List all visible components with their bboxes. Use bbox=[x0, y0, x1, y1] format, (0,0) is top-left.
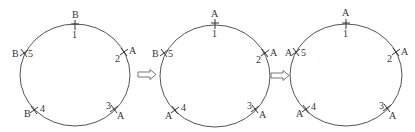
node-state: A bbox=[342, 7, 350, 18]
node-number: 1 bbox=[212, 28, 217, 39]
node-number: 4 bbox=[311, 101, 316, 112]
node-3: A 3 bbox=[106, 100, 125, 121]
node-state: A bbox=[270, 47, 278, 58]
node-number: 2 bbox=[256, 54, 261, 65]
stage-1: B 1 A 2 A 3 4 B 5 B bbox=[12, 9, 137, 126]
node-state: B bbox=[24, 108, 31, 119]
node-2: A 2 bbox=[387, 46, 409, 64]
transition-arrow-1 bbox=[138, 70, 156, 80]
node-number: 1 bbox=[343, 28, 348, 39]
node-2: A 2 bbox=[256, 47, 278, 65]
node-1: B 1 bbox=[71, 9, 79, 40]
node-number: 1 bbox=[72, 29, 77, 40]
node-state: A bbox=[285, 47, 293, 58]
node-state: B bbox=[152, 48, 159, 59]
node-state: A bbox=[296, 108, 304, 119]
node-state: A bbox=[117, 110, 125, 121]
node-3: A 3 bbox=[247, 100, 267, 120]
transition-arrow-2 bbox=[271, 71, 289, 81]
node-number: 5 bbox=[301, 47, 306, 58]
node-4: 4 B bbox=[24, 103, 45, 119]
node-1: A 1 bbox=[342, 7, 350, 39]
stage-3: A 1 A 2 A 3 4 A 5 A bbox=[285, 7, 409, 126]
node-number: 3 bbox=[247, 100, 252, 111]
node-state: A bbox=[401, 46, 409, 57]
ring-diagram: B 1 A 2 A 3 4 B 5 B A 1 bbox=[0, 0, 415, 132]
node-state: A bbox=[165, 110, 173, 121]
node-number: 3 bbox=[379, 100, 384, 111]
node-2: A 2 bbox=[115, 45, 137, 64]
node-state: A bbox=[129, 45, 137, 56]
node-5: 5 B bbox=[152, 48, 173, 59]
node-5: 5 B bbox=[12, 48, 33, 59]
node-state: A bbox=[211, 8, 219, 19]
node-state: B bbox=[72, 9, 79, 20]
node-number: 4 bbox=[181, 102, 186, 113]
node-5: 5 A bbox=[285, 47, 306, 58]
node-state: A bbox=[389, 110, 397, 121]
node-3: A 3 bbox=[379, 100, 397, 121]
node-number: 5 bbox=[28, 48, 33, 59]
node-state: B bbox=[12, 48, 19, 59]
stage-2: A 1 A 2 A 3 4 A 5 B bbox=[152, 8, 278, 127]
node-state: A bbox=[259, 109, 267, 120]
node-number: 2 bbox=[115, 53, 120, 64]
node-number: 4 bbox=[40, 103, 45, 114]
node-number: 2 bbox=[387, 53, 392, 64]
node-number: 3 bbox=[106, 100, 111, 111]
node-number: 5 bbox=[168, 48, 173, 59]
node-1: A 1 bbox=[211, 8, 219, 39]
